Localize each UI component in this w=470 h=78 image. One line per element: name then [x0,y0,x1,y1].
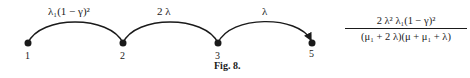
edge-3-5 [218,22,311,43]
node-label-5: 5 [309,49,314,59]
edge-1-2 [28,22,123,43]
node-1 [25,40,32,47]
node-2 [120,40,127,47]
figure-caption: Fig. 8. [214,60,240,71]
fraction-denominator: (μ₁ + 2 λ)(μ + μ₁ + λ) [345,29,467,42]
result-fraction: 2 λ² λ₁(1 − γ)² (μ₁ + 2 λ)(μ + μ₁ + λ) [345,15,467,42]
edge-2-3 [123,22,218,43]
edge-label-2-3: 2 λ [157,6,171,17]
edge-label-3-5: λ [262,6,267,17]
edge-label-1-2: λ₁(1 − γ)² [48,6,90,17]
fraction-numerator: 2 λ² λ₁(1 − γ)² [345,15,467,29]
node-3 [215,40,222,47]
node-5 [309,40,316,47]
node-label-2: 2 [120,51,125,61]
node-label-1: 1 [25,51,30,61]
